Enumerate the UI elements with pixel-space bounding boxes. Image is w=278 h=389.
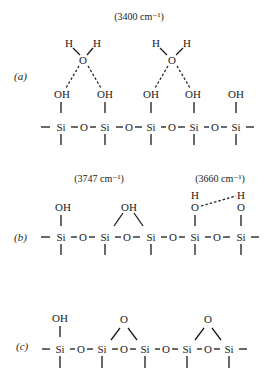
water2-h-right: H [183, 37, 191, 49]
silanol-oh: OH [143, 88, 159, 100]
siloxane-bridge-o: O [120, 313, 128, 325]
si-atom: Si [236, 231, 245, 243]
bridge-o: O [168, 121, 176, 133]
si-atom: Si [100, 231, 109, 243]
silanol-oh: OH [54, 88, 70, 100]
siloxane-bridge-o: O [204, 313, 212, 325]
si-atom: Si [146, 121, 155, 133]
silica-surface-diagram: (3400 cm⁻¹) (a) H H O H H O OH OH OH OH … [0, 0, 278, 389]
si-atom: Si [224, 343, 233, 355]
water1-h-right: H [93, 37, 101, 49]
bridge-o: O [120, 343, 128, 355]
vicinal-o-right: O [237, 201, 245, 213]
bridge-o: O [77, 343, 85, 355]
vicinal-h-left: H [191, 189, 199, 201]
vicinal-o-left: O [191, 201, 199, 213]
water1-o: O [79, 54, 87, 66]
bridge-o: O [211, 121, 219, 133]
si-atom: Si [56, 231, 65, 243]
bridge-o: O [79, 231, 87, 243]
water2-o: O [168, 54, 176, 66]
si-atom: Si [182, 343, 191, 355]
panel-a: (3400 cm⁻¹) (a) H H O H H O OH OH OH OH … [14, 11, 254, 145]
panel-label-a: (a) [14, 70, 27, 83]
annotation-3747: (3747 cm⁻¹) [74, 173, 124, 185]
silanol-oh: OH [228, 88, 244, 100]
bridge-o: O [169, 231, 177, 243]
panel-label-c: (c) [16, 340, 29, 353]
annotation-3660: (3660 cm⁻¹) [195, 173, 245, 185]
si-atom: Si [146, 231, 155, 243]
si-atom: Si [56, 121, 65, 133]
silanol-oh: OH [97, 88, 113, 100]
vicinal-h-right: H [237, 189, 245, 201]
bridge-o: O [213, 231, 221, 243]
bridge-o: O [123, 231, 131, 243]
si-atom: Si [140, 343, 149, 355]
si-atom: Si [231, 121, 240, 133]
annotation-3400: (3400 cm⁻¹) [114, 11, 164, 23]
bridge-o: O [162, 343, 170, 355]
bridge-o: O [125, 121, 133, 133]
water2-h-left: H [152, 37, 160, 49]
si-atom: Si [189, 121, 198, 133]
bridging-oh: OH [121, 201, 137, 213]
si-atom: Si [190, 231, 199, 243]
silanol-oh: OH [185, 88, 201, 100]
panel-label-b: (b) [14, 231, 27, 244]
si-atom: Si [97, 343, 106, 355]
si-atom: Si [100, 121, 109, 133]
panel-c: (c) OH O O Si O Si O Si O Si O Si [16, 312, 247, 368]
silanol-oh: OH [52, 312, 68, 324]
bridge-o: O [204, 343, 212, 355]
isolated-oh: OH [55, 201, 71, 213]
panel-b: (3747 cm⁻¹) (3660 cm⁻¹) (b) OH OH H O H … [14, 173, 259, 255]
si-atom: Si [55, 343, 64, 355]
bridge-o: O [80, 121, 88, 133]
water1-h-left: H [65, 37, 73, 49]
